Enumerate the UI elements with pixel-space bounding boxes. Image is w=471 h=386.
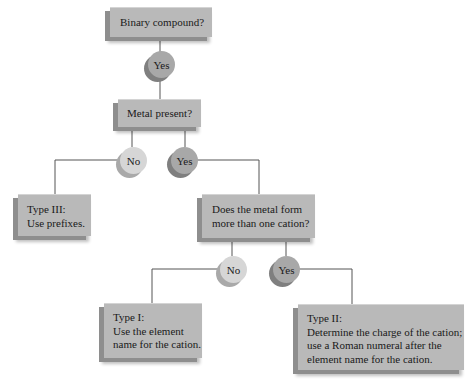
node-label: Type I: Use the element name for the cat…: [113, 311, 201, 350]
node-label: Binary compound?: [120, 16, 204, 28]
decision-label: Yes: [153, 59, 169, 71]
no-decision-3: No: [220, 256, 247, 283]
decision-label: Yes: [176, 155, 192, 167]
yes-decision-1: Yes: [148, 51, 175, 78]
type-iii-node: Type III: Use prefixes.: [18, 194, 91, 236]
no-decision-2: No: [120, 147, 147, 174]
decision-label: Yes: [278, 264, 294, 276]
node-label: Does the metal form more than one cation…: [212, 203, 309, 229]
decision-label: No: [127, 155, 140, 167]
binary-compound-node: Binary compound?: [110, 7, 212, 37]
yes-decision-3: Yes: [273, 256, 300, 283]
decision-label: No: [227, 264, 240, 276]
node-label: Metal present?: [127, 107, 192, 119]
node-label: Type II: Determine the charge of the cat…: [307, 312, 462, 365]
metal-present-node: Metal present?: [118, 99, 201, 127]
type-i-node: Type I: Use the element name for the cat…: [104, 303, 202, 358]
yes-decision-2: Yes: [171, 147, 198, 174]
type-ii-node: Type II: Determine the charge of the cat…: [298, 304, 464, 370]
node-label: Type III: Use prefixes.: [27, 203, 85, 229]
multiple-cations-node: Does the metal form more than one cation…: [202, 194, 315, 238]
